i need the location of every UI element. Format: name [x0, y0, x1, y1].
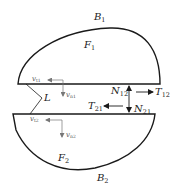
label-b2: B2 — [97, 173, 109, 184]
label-t12: T12 — [155, 87, 170, 98]
label-vn1: vn1 — [66, 92, 76, 100]
label-n21: N21 — [134, 104, 151, 115]
label-vt1: vt1 — [32, 76, 41, 84]
gap-l-leader — [26, 84, 42, 114]
label-vn2: vn2 — [66, 132, 76, 140]
label-t21: T21 — [88, 101, 103, 112]
label-f1: F1 — [84, 40, 95, 51]
label-b1: B1 — [94, 12, 106, 23]
label-f2: F2 — [58, 153, 69, 164]
label-l: L — [44, 93, 51, 103]
label-n12: N12 — [111, 86, 128, 97]
contact-diagram: B1 F1 F2 B2 L vt1 vn1 vt2 vn2 N12 T12 T2… — [0, 0, 181, 191]
diagram-graphics — [0, 0, 181, 191]
label-vt2: vt2 — [30, 116, 39, 124]
